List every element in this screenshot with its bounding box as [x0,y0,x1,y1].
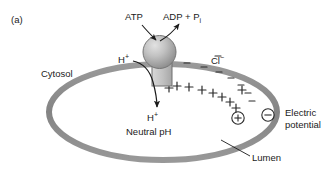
proton-cytosol-text: H [118,54,125,65]
electric-potential-label: Electricpotential [285,107,321,130]
neutral-ph-label: Neutral pH [126,126,171,137]
chloride-label: Cl− [211,55,224,66]
proton-lumen-text: H [147,112,154,123]
electric-line-1: Electric [285,107,316,118]
panel-label: (a) [11,14,23,25]
adp-text: ADP + P [163,11,200,22]
proton-cytosol-label: H+ [118,54,129,65]
chloride-sup: − [220,54,224,61]
proton-lumen-label: H+ [147,112,158,123]
proton-cytosol-sup: + [125,53,129,60]
proton-lumen-sup: + [154,111,158,118]
figure-panel-a: (a) ATP ADP + Pi H+ H+ Neutral pH Cytoso… [0,0,329,178]
adp-label: ADP + Pi [163,11,201,22]
atp-arrow [142,25,156,40]
circled-negative-icon [262,109,274,121]
electric-line-2: potential [285,119,321,130]
pump-head-sphere [143,36,176,69]
circled-positive-icon [232,112,244,124]
lumen-label: Lumen [252,152,281,163]
cytosol-label: Cytosol [41,68,73,79]
positive-charge-group [165,82,246,112]
atp-label: ATP [125,11,143,22]
chloride-text: Cl [211,55,220,66]
adp-subscript: i [200,17,202,24]
